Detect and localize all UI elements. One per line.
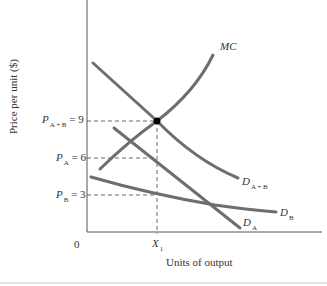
- label-d-b-sub: B: [289, 214, 294, 222]
- equilibrium-point: [154, 118, 161, 125]
- label-d-a: DA: [243, 217, 257, 228]
- label-d-ab-sub: A + B: [251, 183, 268, 191]
- label-d-a-sub: A: [252, 224, 257, 232]
- y-tick-p-a: PA = 6: [56, 152, 86, 163]
- label-d-ab: DA + B: [242, 176, 268, 187]
- bottom-divider: [0, 282, 327, 284]
- label-d-ab-main: D: [242, 175, 250, 187]
- y-tick-p-b-sub: B: [64, 196, 69, 204]
- curve-d-a: [114, 128, 240, 228]
- y-tick-p-ab-sub: A + B: [50, 121, 67, 129]
- x-tick-x1-main: X: [152, 237, 159, 249]
- y-tick-p-a-main: P: [56, 151, 63, 163]
- y-tick-p-b: PB = 3: [56, 189, 86, 200]
- label-d-b-main: D: [280, 206, 288, 218]
- curve-mc: [100, 55, 213, 169]
- y-tick-p-ab-main: P: [42, 113, 49, 125]
- y-tick-p-a-value: = 6: [72, 151, 86, 163]
- label-d-b: DB: [280, 207, 294, 218]
- chart-canvas: [0, 0, 327, 286]
- y-tick-p-b-value: = 3: [71, 188, 85, 200]
- y-tick-p-ab-value: = 9: [69, 113, 83, 125]
- y-tick-p-a-sub: A: [64, 159, 69, 167]
- x-axis-title: Units of output: [166, 257, 233, 268]
- label-d-a-main: D: [243, 216, 251, 228]
- y-tick-p-b-main: P: [56, 188, 63, 200]
- label-mc: MC: [220, 41, 237, 52]
- x-tick-x1: X1: [152, 238, 163, 249]
- y-axis-title: Price per unit ($): [7, 59, 19, 134]
- x-tick-x1-sub: 1: [160, 245, 164, 253]
- origin-label: 0: [74, 239, 80, 250]
- curve-d-ab: [93, 63, 238, 178]
- y-tick-p-ab: PA + B = 9: [42, 114, 84, 125]
